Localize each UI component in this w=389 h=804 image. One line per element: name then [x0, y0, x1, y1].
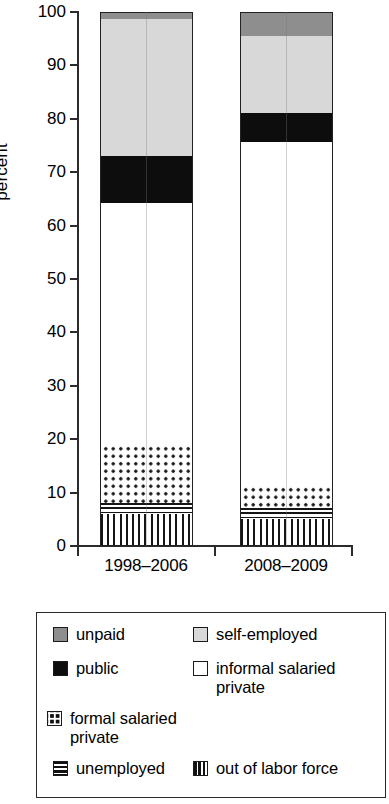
y-tick-label-40: 40 [6, 323, 66, 340]
x-category-label-2: 2008–2009 [226, 556, 346, 576]
bar-2008-2009 [240, 12, 333, 546]
stacked-bar-chart: percent 1009080706050403020100 1998–2006… [0, 0, 389, 596]
horizontal-stripe-swatch [53, 761, 68, 776]
bar-seam [146, 12, 147, 546]
legend-label: formal salaried private [70, 709, 187, 747]
legend-item-public: public [53, 659, 173, 678]
y-tick-label-10: 10 [6, 484, 66, 501]
y-tick-label-100: 100 [6, 3, 66, 20]
bar-seam [286, 12, 287, 546]
y-tick-label-80: 80 [6, 110, 66, 127]
x-category-label-1: 1998–2006 [86, 556, 206, 576]
y-tick-label-0: 0 [6, 537, 66, 554]
legend-item-formal-salaried-private: formal salaried private [47, 709, 187, 747]
chart-legend: unpaidself-employedpublicinformal salari… [36, 612, 386, 798]
legend-label: informal salaried private [216, 659, 368, 697]
legend-item-unpaid: unpaid [53, 625, 173, 644]
y-tick-label-20: 20 [6, 430, 66, 447]
solid-black-swatch [53, 661, 68, 676]
x-tick-2 [351, 547, 353, 556]
legend-item-unemployed: unemployed [53, 759, 183, 778]
y-tick-label-90: 90 [6, 56, 66, 73]
plot-area [78, 12, 352, 546]
empty-white-swatch [193, 661, 208, 676]
x-tick-0 [77, 547, 79, 556]
legend-item-informal-salaried-private: informal salaried private [193, 659, 368, 697]
legend-label: unemployed [76, 759, 165, 778]
y-tick-label-70: 70 [6, 163, 66, 180]
x-tick-1 [214, 547, 216, 556]
legend-label: out of labor force [216, 759, 338, 778]
vertical-stripe-swatch [193, 761, 208, 776]
dotted-swatch [47, 711, 62, 726]
bar-1998-2006 [100, 12, 193, 546]
legend-item-self-employed: self-employed [193, 625, 373, 644]
legend-label: self-employed [216, 625, 317, 644]
legend-item-out-of-labor-force: out of labor force [193, 759, 373, 778]
y-tick-label-50: 50 [6, 270, 66, 287]
y-tick-label-30: 30 [6, 377, 66, 394]
solid-dark-gray-swatch [53, 627, 68, 642]
y-tick-label-60: 60 [6, 217, 66, 234]
legend-label: unpaid [76, 625, 125, 644]
solid-light-gray-swatch [193, 627, 208, 642]
legend-label: public [76, 659, 119, 678]
